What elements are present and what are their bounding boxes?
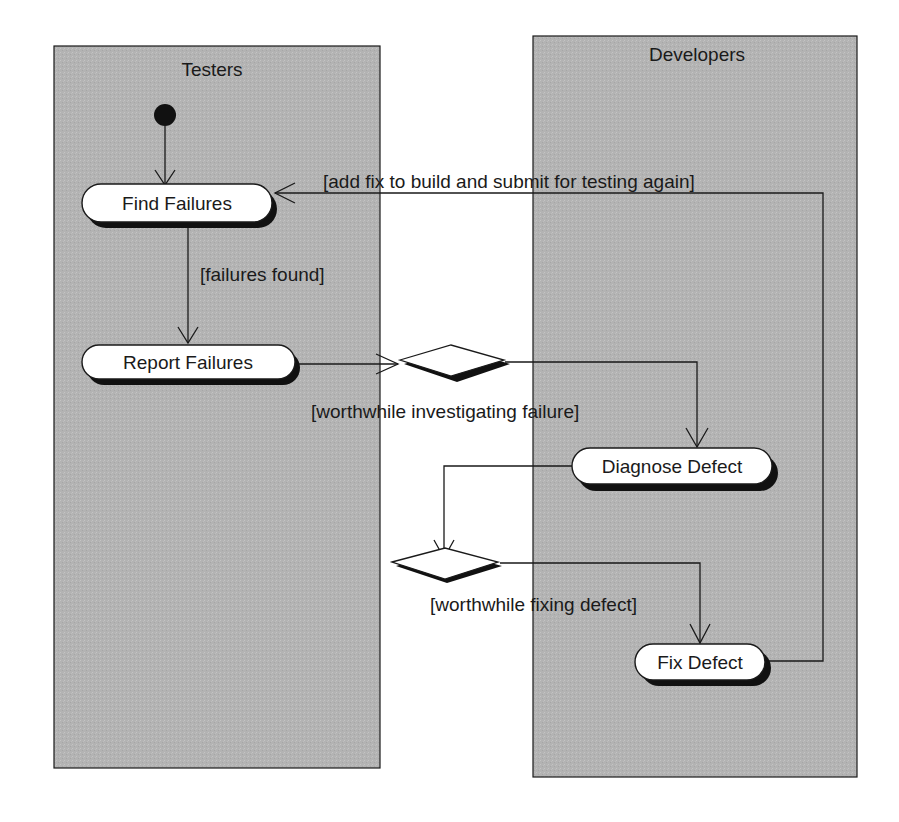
guard-worthwhile-fixing: [worthwhile fixing defect]: [430, 594, 637, 615]
decision-fix: [392, 548, 502, 583]
lane-title-testers: Testers: [181, 59, 242, 80]
initial-node: [154, 104, 176, 126]
activity-label: Report Failures: [123, 352, 253, 373]
decision-diamond-icon: [400, 345, 504, 376]
activity-label: Fix Defect: [657, 652, 743, 673]
activity-report-failures: Report Failures: [82, 345, 300, 385]
activity-diagram: Testers Developers Find Failures: [0, 0, 899, 822]
activity-diagnose-defect: Diagnose Defect: [572, 448, 778, 491]
guard-failures-found: [failures found]: [200, 264, 325, 285]
lane-title-developers: Developers: [649, 44, 745, 65]
activity-fix-defect: Fix Defect: [635, 644, 771, 686]
guard-worthwhile-investigating: [worthwhile investigating failure]: [311, 401, 579, 422]
activity-label: Find Failures: [122, 193, 232, 214]
guard-add-fix: [add fix to build and submit for testing…: [323, 171, 695, 192]
decision-investigate: [400, 345, 510, 382]
activity-label: Diagnose Defect: [602, 456, 743, 477]
decision-diamond-icon: [392, 548, 498, 579]
activity-find-failures: Find Failures: [82, 184, 277, 228]
